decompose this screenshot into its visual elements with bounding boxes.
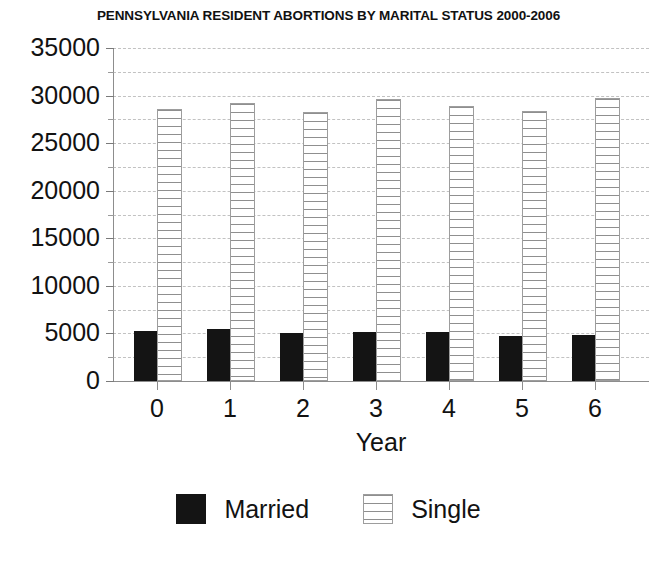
y-axis-tick-minor <box>108 119 114 120</box>
chart-container: PENNSYLVANIA RESIDENT ABORTIONS BY MARIT… <box>0 0 657 576</box>
y-axis-tick <box>106 48 114 49</box>
bar-married <box>207 329 230 381</box>
y-axis-tick-label: 0 <box>0 368 100 393</box>
bar-married <box>353 332 376 381</box>
y-axis-tick-minor <box>108 357 114 358</box>
y-axis-tick <box>106 286 114 287</box>
bar-single <box>376 99 401 381</box>
x-axis-tick <box>376 381 377 390</box>
bar-married <box>499 336 522 381</box>
bar-single <box>157 109 182 381</box>
legend-item-married: Married <box>176 494 309 524</box>
bar-single <box>303 112 328 381</box>
bar-single <box>595 98 620 381</box>
bar-single <box>230 103 255 381</box>
y-axis-tick-minor <box>108 215 114 216</box>
y-axis-tick-label: 10000 <box>0 273 100 298</box>
chart-title: PENNSYLVANIA RESIDENT ABORTIONS BY MARIT… <box>0 8 657 23</box>
bar-single <box>449 106 474 381</box>
x-axis-tick <box>595 381 596 390</box>
x-axis-tick-label: 6 <box>575 395 615 422</box>
x-axis-tick <box>157 381 158 390</box>
y-axis-tick <box>106 238 114 239</box>
x-axis-line <box>113 381 649 382</box>
x-axis-tick <box>449 381 450 390</box>
bar-married <box>426 332 449 381</box>
gridline <box>113 96 649 97</box>
x-axis-tick-label: 3 <box>356 395 396 422</box>
y-axis-tick <box>106 333 114 334</box>
y-axis-tick-label: 15000 <box>0 225 100 250</box>
gridline-minor <box>113 72 649 73</box>
y-axis-tick <box>106 96 114 97</box>
y-axis-tick-label: 5000 <box>0 320 100 345</box>
chart-legend: Married Single <box>0 494 657 524</box>
x-axis-tick-label: 0 <box>137 395 177 422</box>
y-axis-tick-minor <box>108 262 114 263</box>
y-axis-tick-minor <box>108 310 114 311</box>
y-axis-tick-minor <box>108 72 114 73</box>
legend-item-single: Single <box>363 494 481 524</box>
y-axis-tick <box>106 191 114 192</box>
x-axis-tick <box>522 381 523 390</box>
y-axis-tick-label: 30000 <box>0 83 100 108</box>
x-axis-tick-label: 2 <box>283 395 323 422</box>
plot-area: 0123456 <box>113 48 649 381</box>
legend-swatch-married-icon <box>176 494 206 524</box>
bar-married <box>572 335 595 381</box>
x-axis-tick-label: 5 <box>502 395 542 422</box>
y-axis-tick-label: 25000 <box>0 130 100 155</box>
legend-label-married: Married <box>224 497 309 522</box>
bar-single <box>522 111 547 381</box>
gridline <box>113 48 649 49</box>
y-axis-tick-minor <box>108 167 114 168</box>
bar-married <box>280 333 303 381</box>
y-axis-tick-label: 20000 <box>0 178 100 203</box>
x-axis-tick-label: 1 <box>210 395 250 422</box>
x-axis-tick <box>303 381 304 390</box>
legend-swatch-single-icon <box>363 494 393 524</box>
x-axis-tick-label: 4 <box>429 395 469 422</box>
y-axis-tick-label: 35000 <box>0 35 100 60</box>
x-axis-title: Year <box>113 428 649 457</box>
y-axis-tick <box>106 143 114 144</box>
bar-married <box>134 331 157 381</box>
legend-label-single: Single <box>411 497 481 522</box>
y-axis-tick <box>106 381 114 382</box>
x-axis-tick <box>230 381 231 390</box>
